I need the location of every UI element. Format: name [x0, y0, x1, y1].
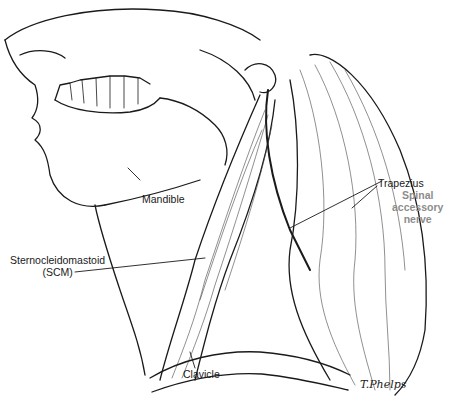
- label-spinal-line2: accessory: [392, 201, 443, 213]
- label-scm-line2: (SCM): [10, 266, 105, 278]
- label-spinal-accessory-nerve: Spinal accessory nerve: [392, 189, 443, 225]
- artist-signature: T.Phelps: [360, 378, 406, 391]
- label-spinal-line3: nerve: [392, 213, 443, 225]
- label-sternocleidomastoid: Sternocleidomastoid (SCM): [10, 254, 105, 278]
- label-spinal-line1: Spinal: [392, 189, 443, 201]
- neck-anatomy-illustration: [0, 0, 457, 418]
- label-trapezius: Trapezius: [378, 177, 424, 189]
- label-clavicle: Clavicle: [183, 368, 220, 380]
- label-scm-line1: Sternocleidomastoid: [10, 254, 105, 266]
- label-mandible: Mandible: [142, 193, 185, 205]
